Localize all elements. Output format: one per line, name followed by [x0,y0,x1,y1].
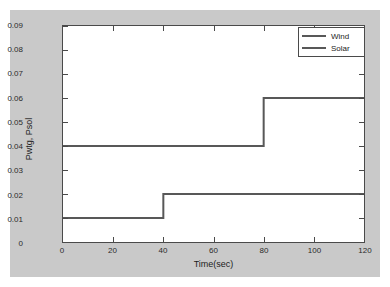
ytick-mark [63,26,68,27]
series-canvas [63,26,364,242]
ytick-mark-right [359,146,364,147]
y-axis-title: Pwtg, Psol [24,89,34,189]
legend-entry-wind[interactable]: Wind [302,31,361,42]
xtick-mark [113,237,114,242]
legend-line-swatch-wind [302,35,326,37]
xtick-label: 100 [308,246,321,255]
ytick-mark [63,194,68,195]
xtick-label: 0 [60,246,64,255]
ytick-mark [63,98,68,99]
xtick-label: 80 [260,246,269,255]
ytick-label: 0.03 [7,166,23,175]
ytick-mark-right [359,122,364,123]
ytick-mark-right [359,218,364,219]
legend-label-solar: Solar [331,44,350,53]
xtick-mark-top [163,26,164,31]
ytick-mark-right [359,170,364,171]
ytick-mark-right [359,194,364,195]
ytick-label: 0.05 [7,117,23,126]
legend-line-swatch-solar [302,47,326,49]
legend-entry-solar[interactable]: Solar [302,43,361,54]
xtick-mark [264,237,265,242]
ytick-mark-right [359,98,364,99]
xtick-label: 60 [209,246,218,255]
ytick-label: 0.04 [7,142,23,151]
xtick-mark [214,237,215,242]
ytick-label: 0.06 [7,93,23,102]
ytick-mark-right [359,74,364,75]
xtick-mark [163,237,164,242]
ytick-mark [63,74,68,75]
xtick-mark-top [214,26,215,31]
xtick-mark-top [113,26,114,31]
xtick-mark [314,237,315,242]
xtick-label: 40 [159,246,168,255]
plot-area [62,25,365,243]
ytick-mark [63,170,68,171]
ytick-label: 0.02 [7,190,23,199]
ytick-mark [63,50,68,51]
legend-label-wind: Wind [331,32,349,41]
plot-inner [63,26,364,242]
ytick-mark [63,218,68,219]
figure-window: 0.09 0.08 0.07 0.06 0.05 0.04 0.03 0.02 … [10,10,380,277]
ytick-mark [63,146,68,147]
xtick-mark-top [264,26,265,31]
xtick-label: 20 [108,246,117,255]
x-axis-title: Time(sec) [62,259,365,269]
ytick-label: 0.07 [7,69,23,78]
series-line-solar [63,194,364,218]
series-line-wind [63,98,364,146]
ytick-label: 0.01 [7,214,23,223]
xtick-label: 120 [358,246,371,255]
ytick-label: 0.08 [7,45,23,54]
ytick-label: 0.09 [7,21,23,30]
ytick-mark [63,242,68,243]
legend-box[interactable]: Wind Solar [298,27,365,57]
ytick-mark [63,122,68,123]
ytick-label: 0 [19,239,23,248]
